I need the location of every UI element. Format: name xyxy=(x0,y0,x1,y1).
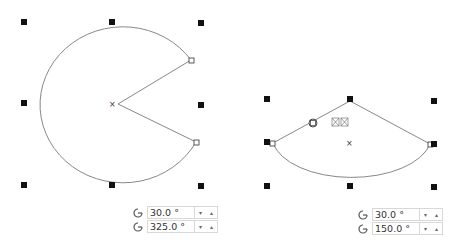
spin-up-icon[interactable]: ▴ xyxy=(435,211,438,218)
start-angle-spinner[interactable]: ▾▴ xyxy=(195,206,218,219)
spin-down-icon[interactable]: ▾ xyxy=(424,225,427,232)
spin-up-icon[interactable]: ▴ xyxy=(435,225,438,232)
rotate-handle-icon[interactable] xyxy=(309,119,317,127)
right-pie-shape[interactable]: × xyxy=(270,101,433,177)
end-angle-spinner[interactable]: ▾▴ xyxy=(420,222,443,235)
end-angle-spinner[interactable]: ▾▴ xyxy=(195,220,218,233)
spin-down-icon[interactable]: ▾ xyxy=(199,209,202,216)
start-angle-input[interactable]: 30.0 ° xyxy=(372,208,420,221)
left-pie-shape[interactable]: × xyxy=(40,27,199,183)
spin-down-icon[interactable]: ▾ xyxy=(424,211,427,218)
spin-down-icon[interactable]: ▾ xyxy=(199,223,202,230)
start-angle-icon xyxy=(132,207,144,219)
end-angle-row: 150.0 ° ▾▴ xyxy=(357,222,443,235)
start-angle-spinner[interactable]: ▾▴ xyxy=(420,208,443,221)
end-angle-icon xyxy=(132,221,144,233)
end-angle-input[interactable]: 150.0 ° xyxy=(372,222,420,235)
end-angle-input[interactable]: 325.0 ° xyxy=(147,220,195,233)
skew-handle-icons[interactable] xyxy=(332,118,348,126)
start-angle-row: 30.0 ° ▾▴ xyxy=(357,208,443,221)
end-angle-row: 325.0 ° ▾▴ xyxy=(132,220,218,233)
start-angle-icon xyxy=(357,209,369,221)
center-marker-icon: × xyxy=(346,139,353,148)
arc-node-end[interactable] xyxy=(194,140,199,145)
left-angle-controls: 30.0 ° ▾▴ 325.0 ° ▾▴ xyxy=(132,206,218,233)
arc-node-start[interactable] xyxy=(189,58,194,63)
start-angle-row: 30.0 ° ▾▴ xyxy=(132,206,218,219)
spin-up-icon[interactable]: ▴ xyxy=(210,209,213,216)
end-angle-icon xyxy=(357,223,369,235)
center-marker-icon: × xyxy=(109,100,116,109)
start-angle-input[interactable]: 30.0 ° xyxy=(147,206,195,219)
right-angle-controls: 30.0 ° ▾▴ 150.0 ° ▾▴ xyxy=(357,208,443,235)
arc-node-start[interactable] xyxy=(270,141,275,146)
spin-up-icon[interactable]: ▴ xyxy=(210,223,213,230)
